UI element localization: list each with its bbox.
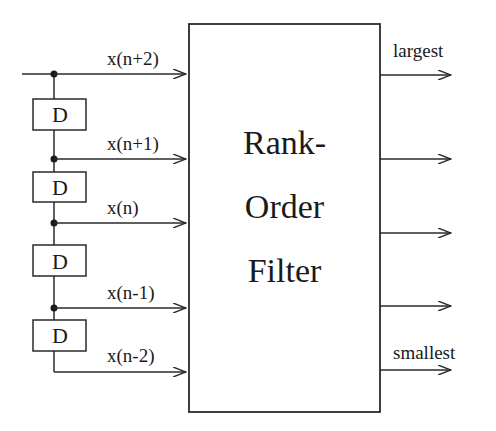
delay-block-4-label: D [52,325,68,347]
output-label-largest: largest [393,41,443,60]
delay-block-1-label: D [52,104,68,126]
delay-block-2-label: D [52,177,68,199]
input-label-x-n-plus-1: x(n+1) [107,134,159,153]
delay-block-3-label: D [52,251,68,273]
input-label-x-n-minus-2: x(n-2) [107,346,154,365]
filter-label-line-1: Rank- [189,126,380,160]
input-label-x-n: x(n) [107,198,139,217]
filter-label-line-2: Order [189,190,380,224]
output-label-smallest: smallest [393,343,455,362]
input-label-x-n-plus-2: x(n+2) [107,49,159,68]
input-label-x-n-minus-1: x(n-1) [107,283,154,302]
filter-label-line-3: Filter [189,254,380,288]
